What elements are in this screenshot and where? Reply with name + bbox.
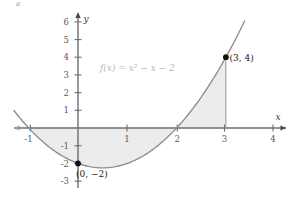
point-marker-0-neg2	[75, 161, 81, 167]
x-tick-label-3: 3	[222, 134, 227, 144]
y-tick-label-4: 4	[64, 52, 69, 62]
figure-container: a	[0, 0, 295, 198]
shaded-region	[29, 57, 226, 168]
y-tick-label-3: 3	[64, 70, 69, 80]
y-axis-label: y	[82, 14, 89, 24]
x-tick-label-4: 4	[270, 134, 275, 144]
point-label-3-4: (3, 4)	[230, 53, 254, 63]
y-tick-label-5: 5	[64, 35, 69, 45]
x-axis-arrow	[281, 126, 287, 131]
x-tick-label-neg1: -1	[24, 134, 32, 144]
function-expression-label: f(x) = x² − x − 2	[99, 63, 175, 73]
y-tick-labels: 6 5 4 3 2 1 -1 -2 -3	[61, 17, 69, 186]
y-tick-label-neg3: -3	[61, 176, 69, 186]
x-tick-label-1: 1	[124, 134, 129, 144]
y-axis-arrow	[75, 12, 80, 18]
y-tick-label-2: 2	[64, 88, 69, 98]
point-marker-3-4	[223, 54, 229, 60]
x-axis-arrow-left	[14, 126, 20, 131]
y-tick-label-neg2: -2	[61, 159, 69, 169]
y-tick-label-neg1: -1	[61, 141, 69, 151]
y-tick-label-1: 1	[64, 105, 69, 115]
x-axis-label: x	[275, 112, 280, 122]
function-plot: -1 1 2 3 4 6 5 4 3 2 1 -1 -2 -3 x y f(x)…	[0, 0, 295, 198]
x-tick-label-2: 2	[175, 134, 180, 144]
y-tick-label-6: 6	[64, 17, 69, 27]
point-label-0-neg2: (0, −2)	[76, 169, 108, 179]
